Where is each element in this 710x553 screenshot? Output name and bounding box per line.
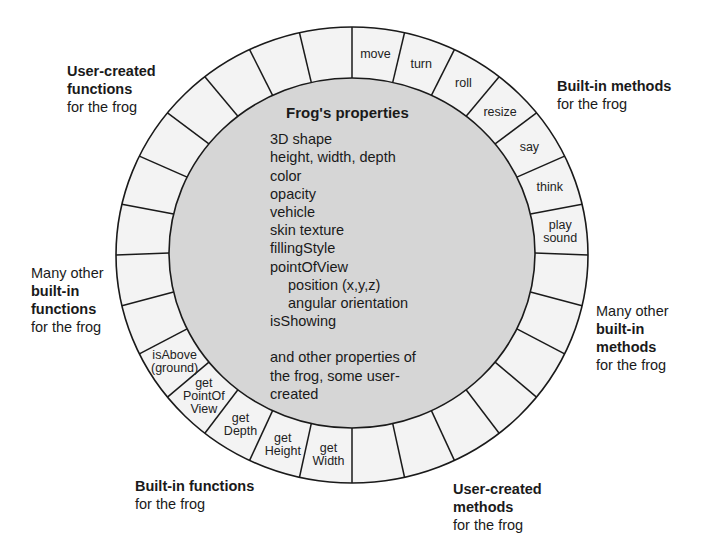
properties-footer-line: and other properties of (270, 348, 470, 366)
property-item: color (270, 167, 470, 185)
callout-many-built-in-methods: Many other built-in methods for the frog (596, 302, 669, 374)
callout-normal-line: for the frog (135, 495, 254, 513)
callout-user-created-functions: User-created functions for the frog (67, 62, 156, 116)
callout-normal-line: for the frog (557, 95, 671, 113)
callout-normal-line: for the frog (453, 516, 542, 534)
callout-bold-line: Built-in methods (557, 77, 671, 95)
callout-bold-line: built-in (596, 320, 669, 338)
property-item: opacity (270, 185, 470, 203)
callout-bold-line: methods (453, 498, 542, 516)
ring-segment-label: move (360, 47, 391, 61)
property-item: pointOfView (270, 258, 470, 276)
properties-title: Frog's properties (286, 104, 470, 122)
property-item: 3D shape (270, 130, 470, 148)
ring-segment-label: think (537, 180, 564, 194)
properties-footer: and other properties ofthe frog, some us… (270, 348, 470, 403)
callout-user-created-methods: User-created methods for the frog (453, 480, 542, 534)
callout-normal-line: for the frog (67, 98, 156, 116)
property-item: fillingStyle (270, 239, 470, 257)
callout-bold-line: functions (31, 300, 104, 318)
property-item: height, width, depth (270, 148, 470, 166)
callout-normal-line: for the frog (31, 318, 104, 336)
callout-normal-line: Many other (596, 302, 669, 320)
callout-built-in-methods: Built-in methods for the frog (557, 77, 671, 113)
callout-normal-line: for the frog (596, 356, 669, 374)
callout-bold-line: Built-in functions (135, 477, 254, 495)
callout-bold-line: built-in (31, 282, 104, 300)
frog-properties-panel: Frog's properties 3D shapeheight, width,… (270, 104, 470, 403)
callout-bold-line: User-created (453, 480, 542, 498)
callout-bold-line: methods (596, 338, 669, 356)
properties-footer-line: the frog, some user- (270, 367, 470, 385)
property-item: angular orientation (270, 294, 470, 312)
properties-footer-line: created (270, 385, 470, 403)
ring-segment-label: say (520, 140, 540, 154)
callout-bold-line: functions (67, 80, 156, 98)
callout-built-in-functions: Built-in functions for the frog (135, 477, 254, 513)
callout-bold-line: User-created (67, 62, 156, 80)
ring-segment-label: turn (410, 57, 432, 71)
property-item: position (x,y,z) (270, 276, 470, 294)
ring-segment-label: roll (455, 76, 472, 90)
property-item: skin texture (270, 221, 470, 239)
property-item: vehicle (270, 203, 470, 221)
property-item: isShowing (270, 312, 470, 330)
callout-normal-line: Many other (31, 264, 104, 282)
ring-segment-label: isAbove(ground) (151, 348, 198, 375)
properties-list: 3D shapeheight, width, depthcoloropacity… (270, 130, 470, 330)
ring-segment-label: resize (483, 105, 516, 119)
callout-many-built-in-functions: Many other built-in functions for the fr… (31, 264, 104, 336)
